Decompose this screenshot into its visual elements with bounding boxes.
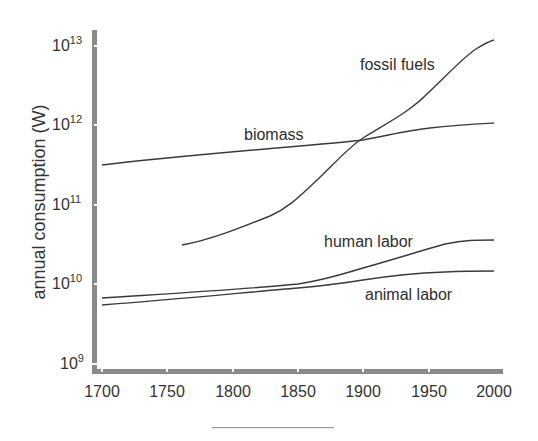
y-tick-1e10: 1010 <box>52 272 82 292</box>
x-tick-1700: 1700 <box>84 383 120 400</box>
x-tick-1800: 1800 <box>215 383 251 400</box>
y-tick-1e12: 1012 <box>52 113 82 133</box>
y-tick-1e13: 1013 <box>52 34 82 54</box>
x-tick-1850: 1850 <box>280 383 316 400</box>
label-fossil-fuels: fossil fuels <box>360 56 435 73</box>
x-tick-1750: 1750 <box>149 383 185 400</box>
axes <box>92 30 503 374</box>
y-axis-label: annual consumption (W) <box>29 104 49 299</box>
series-labels: fossil fuels biomass human labor animal … <box>244 56 453 303</box>
series-lines <box>102 40 494 305</box>
label-human-labor: human labor <box>324 233 414 250</box>
x-tick-2000: 2000 <box>476 383 512 400</box>
x-tick-labels: 1700 1750 1800 1850 1900 1950 2000 <box>84 383 512 400</box>
x-tick-1900: 1900 <box>345 383 381 400</box>
chart: 1013 1012 1011 1010 109 1700 1750 1800 1… <box>0 0 538 441</box>
y-axis <box>92 30 97 374</box>
separator-line <box>212 427 334 428</box>
label-biomass: biomass <box>244 126 304 143</box>
x-tick-1950: 1950 <box>411 383 447 400</box>
y-tick-1e11: 1011 <box>52 193 81 213</box>
y-tick-1e9: 109 <box>60 352 84 372</box>
y-tick-labels: 1013 1012 1011 1010 109 <box>52 34 84 372</box>
label-animal-labor: animal labor <box>365 286 453 303</box>
